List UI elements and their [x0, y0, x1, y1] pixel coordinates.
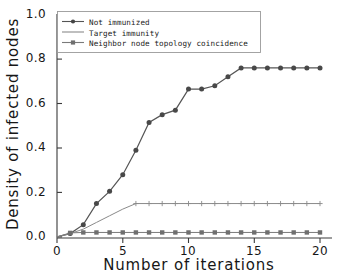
data-point [212, 201, 217, 206]
data-point [199, 230, 203, 234]
data-point [173, 230, 177, 234]
data-point [278, 201, 283, 206]
data-point [252, 65, 257, 70]
data-point [292, 230, 296, 234]
data-point [304, 201, 309, 206]
data-point [291, 201, 296, 206]
data-point [213, 230, 217, 234]
data-point [239, 201, 244, 206]
data-point [199, 87, 204, 92]
data-point [226, 230, 230, 234]
x-axis-title: Number of iterations [60, 256, 318, 274]
data-point [186, 230, 190, 234]
data-point [304, 65, 309, 70]
data-point [133, 201, 138, 206]
data-point [186, 201, 191, 206]
data-point [265, 230, 269, 234]
series-3 [57, 230, 322, 237]
data-point [265, 65, 270, 70]
data-point [173, 108, 178, 113]
data-point [317, 201, 322, 206]
data-point [160, 230, 164, 234]
data-point [199, 201, 204, 206]
data-point [318, 65, 323, 70]
data-point [212, 83, 217, 88]
data-point [173, 201, 178, 206]
data-point [265, 201, 270, 206]
data-point [160, 112, 165, 117]
x-tick-marks [57, 238, 320, 243]
series-line [57, 68, 320, 237]
data-point [68, 231, 72, 235]
data-point [291, 65, 296, 70]
data-point [147, 120, 152, 125]
data-point [81, 230, 85, 234]
data-point [107, 230, 111, 234]
data-point [225, 74, 230, 79]
data-point [120, 172, 125, 177]
data-point [318, 230, 322, 234]
data-point [239, 230, 243, 234]
data-point [252, 201, 257, 206]
legend-label-not-immunized: Not immunized [89, 18, 150, 27]
y-axis-title: Density of infected nodes [4, 4, 22, 244]
data-point [239, 65, 244, 70]
data-point [305, 230, 309, 234]
data-point [107, 189, 112, 194]
data-point [278, 65, 283, 70]
data-point [94, 201, 99, 206]
data-point [146, 201, 151, 206]
data-point [160, 201, 165, 206]
legend-label-neighbor-topology: Neighbor node topology coincidence [89, 39, 248, 48]
data-point [133, 148, 138, 153]
chart-figure: 1.0 0.8 0.6 0.4 0.2 0.0 0 5 10 15 20 Den… [0, 0, 337, 279]
data-point [147, 230, 151, 234]
data-point [94, 230, 98, 234]
data-point [278, 230, 282, 234]
series-layer [57, 65, 323, 236]
legend-label-target-immunity: Target immunity [89, 29, 159, 38]
data-point [81, 222, 86, 227]
data-point [186, 87, 191, 92]
data-point [134, 230, 138, 234]
data-point [252, 230, 256, 234]
data-point [225, 201, 230, 206]
data-point [121, 230, 125, 234]
series-1 [57, 65, 323, 236]
